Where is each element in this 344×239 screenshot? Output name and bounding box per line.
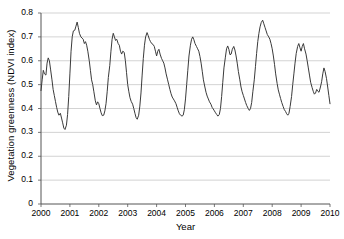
x-axis-title-text: Year: [176, 221, 195, 232]
x-axis-title: Year: [41, 221, 330, 232]
plot-area: [0, 0, 344, 239]
ndvi-time-series-chart: Vegetation greenness (NDVI index) 0.80.7…: [0, 0, 344, 239]
